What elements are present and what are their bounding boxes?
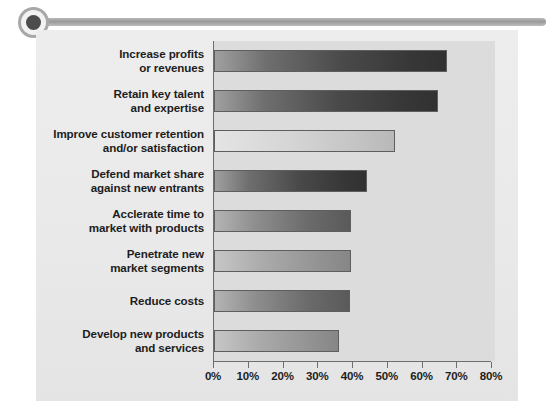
bar-category-label: Penetrate newmarket segments [110, 247, 213, 275]
bar-category-label-line: and services [82, 341, 204, 355]
x-axis-tick-mark [422, 362, 423, 368]
bar-row[interactable]: Reduce costs [36, 281, 518, 321]
bar-category-label-line: against new entrants [91, 181, 204, 195]
bar-row[interactable]: Retain key talentand expertise [36, 81, 518, 121]
x-axis-tick-mark [317, 362, 318, 368]
bar-category-label-line: and/or satisfaction [53, 141, 204, 155]
bar[interactable] [214, 50, 447, 72]
bar[interactable] [214, 330, 339, 352]
bar-category-label: Improve customer retentionand/or satisfa… [53, 127, 213, 155]
bar-row[interactable]: Defend market shareagainst new entrants [36, 161, 518, 201]
bar-row[interactable]: Develop new productsand services [36, 321, 518, 361]
x-axis-tick-mark [456, 362, 457, 368]
bar-chart: 0%10%20%30%40%50%60%70%80% Increase prof… [36, 30, 518, 401]
bar-category-label-line: Increase profits [119, 47, 204, 61]
bar-category-label: Develop new productsand services [82, 327, 213, 355]
x-axis-tick-mark [283, 362, 284, 368]
horizontal-rule-icon [44, 18, 546, 26]
x-axis-tick-mark [213, 362, 214, 368]
bar-row[interactable]: Acclerate time tomarket with products [36, 201, 518, 241]
circle-bullet-dot [26, 15, 41, 30]
bar-category-label-line: Improve customer retention [53, 127, 204, 141]
x-axis-tick-mark [352, 362, 353, 368]
bar-row[interactable]: Increase profitsor revenues [36, 41, 518, 81]
bar-category-label-line: or revenues [119, 61, 204, 75]
bar-category-label-line: Develop new products [82, 327, 204, 341]
bar-row[interactable]: Improve customer retentionand/or satisfa… [36, 121, 518, 161]
x-axis-tick-mark [387, 362, 388, 368]
bar-category-label-line: and expertise [114, 101, 204, 115]
bar[interactable] [214, 170, 367, 192]
bar-row[interactable]: Penetrate newmarket segments [36, 241, 518, 281]
bar-category-label-line: market with products [89, 221, 204, 235]
bar[interactable] [214, 90, 438, 112]
bar-category-label: Defend market shareagainst new entrants [91, 167, 213, 195]
figure-page: 0%10%20%30%40%50%60%70%80% Increase prof… [0, 0, 553, 419]
x-axis-tick-mark [248, 362, 249, 368]
bar-category-label-line: market segments [110, 261, 204, 275]
bar-category-label: Retain key talentand expertise [114, 87, 213, 115]
bar-category-label-line: Penetrate new [110, 247, 204, 261]
x-axis-tick-label: 80% [469, 370, 513, 382]
bar[interactable] [214, 130, 395, 152]
bar-category-label-line: Acclerate time to [89, 207, 204, 221]
bar[interactable] [214, 290, 350, 312]
bar-category-label-line: Retain key talent [114, 87, 204, 101]
bar-category-label-line: Defend market share [91, 167, 204, 181]
bar-category-label: Acclerate time tomarket with products [89, 207, 213, 235]
bar-category-label: Reduce costs [130, 294, 213, 308]
bar[interactable] [214, 250, 351, 272]
bar[interactable] [214, 210, 351, 232]
bar-category-label-line: Reduce costs [130, 294, 204, 308]
bar-category-label: Increase profitsor revenues [119, 47, 213, 75]
x-axis-tick-mark [491, 362, 492, 368]
